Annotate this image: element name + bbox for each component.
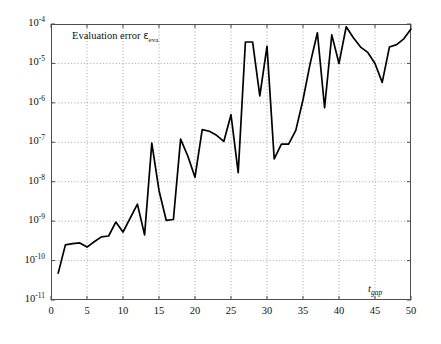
y-tick-label: 10-4 <box>28 18 45 29</box>
x-tick-label: 10 <box>103 306 143 317</box>
gridlines <box>52 25 410 299</box>
x-axis-label-tgap: tgap <box>368 283 382 294</box>
y-tick-label: 10-10 <box>25 255 46 266</box>
figure-container: 10-1110-1010-910-810-710-610-510-4 05101… <box>0 0 441 344</box>
x-tick-label: 15 <box>139 306 179 317</box>
x-tick-label: 5 <box>67 306 107 317</box>
y-tick-label: 10-5 <box>28 57 45 68</box>
xlabel-subscript: gap <box>371 288 382 297</box>
x-tick-label: 45 <box>355 306 395 317</box>
plot-frame <box>52 25 411 300</box>
y-tick-label: 10-9 <box>28 215 45 226</box>
x-tick-label: 35 <box>283 306 323 317</box>
x-tick-label: 40 <box>319 306 359 317</box>
x-tick-label: 50 <box>391 306 431 317</box>
y-tick-label: 10-11 <box>25 294 45 305</box>
y-tick-label: 10-6 <box>28 97 45 108</box>
annotation-subscript: eva <box>149 36 159 44</box>
y-tick-label: 10-8 <box>28 176 45 187</box>
x-tick-label: 30 <box>247 306 287 317</box>
annotation-title-text: Evaluation error <box>72 30 141 41</box>
chart-annotation-evaluation-error: Evaluation error εeva <box>72 30 158 41</box>
x-tick-label: 20 <box>175 306 215 317</box>
y-tick-label: 10-7 <box>28 136 45 147</box>
x-tick-label: 25 <box>211 306 251 317</box>
x-tick-label: 0 <box>31 306 71 317</box>
